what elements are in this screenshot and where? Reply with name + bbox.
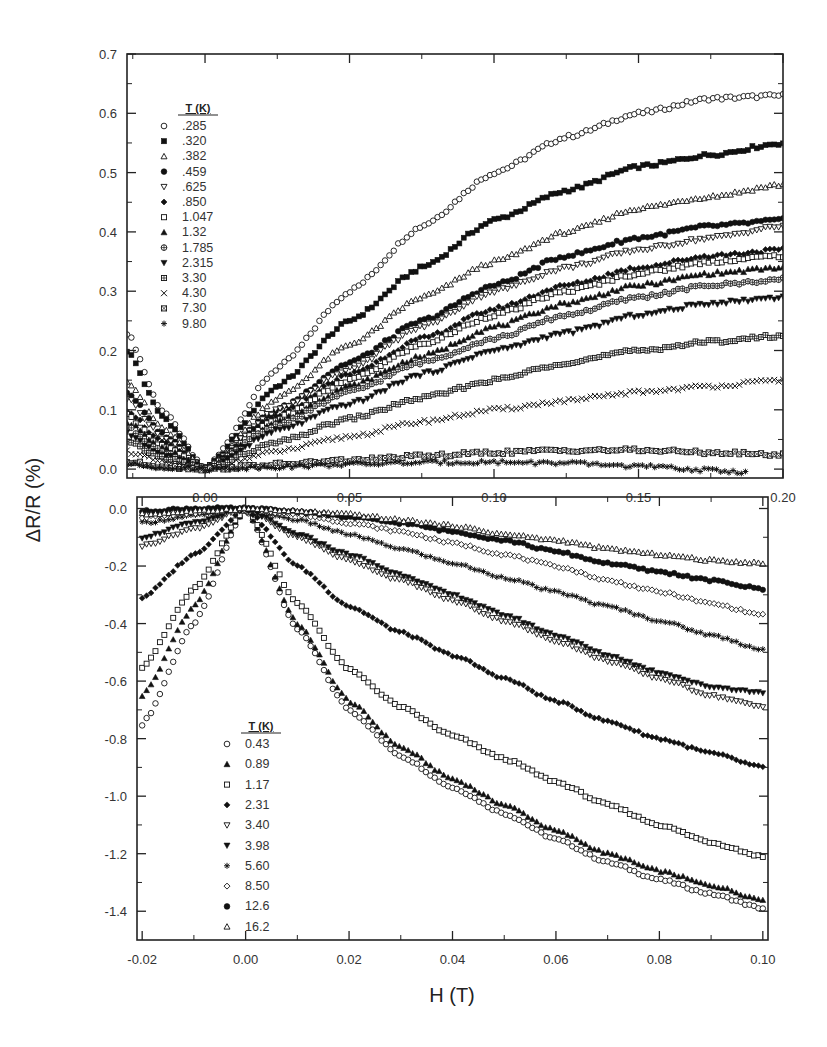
data-point <box>701 237 707 242</box>
legend-marker-icon <box>224 863 230 869</box>
data-point <box>432 556 438 562</box>
data-point <box>374 513 380 518</box>
data-point <box>627 609 633 615</box>
y-axis-title: ΔR/R (%) <box>22 458 44 542</box>
legend-item: .850 <box>161 195 206 209</box>
data-point <box>330 332 335 337</box>
data-point <box>711 632 717 638</box>
data-point <box>273 563 278 568</box>
data-point <box>578 596 584 602</box>
data-point <box>264 541 269 546</box>
data-point <box>192 602 198 607</box>
data-point <box>374 267 380 273</box>
legend-marker-icon <box>224 761 230 766</box>
data-point <box>161 655 167 660</box>
legend-label: .320 <box>182 134 206 148</box>
legend-label: 3.30 <box>182 271 206 285</box>
y-tick-label: -0.2 <box>105 559 127 574</box>
data-point <box>410 548 416 554</box>
data-point <box>591 601 597 607</box>
data-point <box>293 463 299 469</box>
legend-item: .285 <box>161 119 206 133</box>
data-point <box>317 628 322 633</box>
legend-item: .382 <box>161 149 206 163</box>
data-point <box>507 803 513 808</box>
data-point <box>378 262 384 268</box>
y-tick-label: 0.4 <box>99 225 117 240</box>
data-point <box>379 730 385 735</box>
legend-label: 7.30 <box>182 301 206 315</box>
data-point <box>496 321 502 326</box>
data-point <box>215 531 221 537</box>
data-point <box>574 540 580 545</box>
data-point <box>733 639 739 645</box>
data-point <box>170 569 176 575</box>
data-point <box>129 415 134 420</box>
data-point <box>193 620 199 626</box>
data-point <box>343 404 349 409</box>
data-point <box>184 613 190 618</box>
data-point <box>662 388 668 394</box>
data-point <box>631 315 637 320</box>
data-point <box>148 520 154 526</box>
y-tick-label: 0.6 <box>99 106 117 121</box>
legend-label: .285 <box>182 119 206 133</box>
data-point <box>614 852 620 857</box>
legend-label: 9.80 <box>182 317 206 331</box>
data-point <box>707 632 713 638</box>
data-point <box>760 587 766 593</box>
x-tick-label: 0.08 <box>647 952 672 967</box>
data-point <box>268 534 274 540</box>
data-point <box>538 692 544 698</box>
data-point <box>325 308 331 314</box>
data-point <box>745 299 751 304</box>
data-point <box>649 311 655 316</box>
data-point <box>210 536 216 542</box>
y-axis: 0.0-0.2-0.4-0.6-0.8-1.0-1.2-1.4 <box>105 502 768 920</box>
data-point <box>649 865 655 870</box>
data-point <box>201 588 207 593</box>
data-point <box>175 627 181 632</box>
data-point <box>308 643 314 649</box>
data-point <box>400 239 406 245</box>
data-point <box>144 687 150 692</box>
data-point <box>184 594 189 599</box>
data-point <box>321 437 327 443</box>
legend-item: 1.047 <box>161 210 213 224</box>
data-point <box>325 356 331 361</box>
legend-item: 16.2 <box>224 920 269 934</box>
legend-label: 2.315 <box>182 256 213 270</box>
data-point <box>448 204 454 210</box>
data-point <box>395 381 401 386</box>
data-point <box>535 265 541 271</box>
data-point <box>308 372 314 377</box>
legend-marker-icon <box>161 153 167 158</box>
data-point <box>387 253 393 259</box>
data-point <box>565 840 571 846</box>
data-point <box>304 335 310 341</box>
data-point <box>129 335 135 341</box>
data-point <box>622 856 628 861</box>
legend-item: 0.89 <box>224 757 269 771</box>
data-point <box>170 659 176 665</box>
data-point <box>317 659 323 665</box>
data-point <box>251 408 256 413</box>
data-point <box>649 618 655 624</box>
data-point <box>382 389 388 394</box>
data-point <box>505 346 511 351</box>
data-point <box>153 701 159 707</box>
figure: 0.000.050.100.150.200.00.10.20.30.40.50.… <box>0 0 827 1047</box>
data-series-group <box>124 91 786 476</box>
data-point <box>614 391 620 397</box>
data-point <box>640 314 646 319</box>
data-point <box>609 604 615 610</box>
legend-label: 1.32 <box>182 225 206 239</box>
data-point <box>552 588 558 594</box>
legend: T (K).285.320.382.459.625.8501.0471.321.… <box>161 102 218 331</box>
data-point <box>304 608 309 613</box>
data-point <box>142 382 147 387</box>
data-point <box>308 440 314 446</box>
data-point <box>417 460 423 466</box>
data-point <box>547 825 553 830</box>
data-point <box>153 649 158 654</box>
